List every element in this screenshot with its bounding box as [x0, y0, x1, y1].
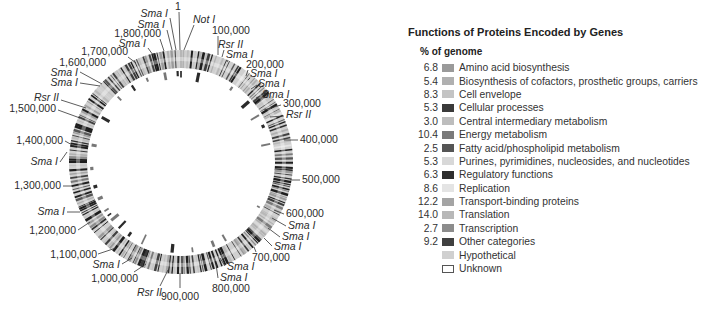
legend-label: Amino acid biosynthesis: [459, 62, 569, 73]
legend-swatch: [442, 238, 454, 246]
restriction-site-label: Sma I: [93, 258, 121, 270]
legend-percent: 2.5: [408, 143, 442, 154]
legend-label: Unknown: [459, 263, 502, 274]
legend-item: 14.0Translation: [408, 208, 703, 221]
legend-swatch: [442, 265, 454, 273]
legend-percent: 8.3: [408, 89, 442, 100]
restriction-site-label: Rsr II: [137, 286, 162, 298]
legend-item: 2.7Transcription: [408, 222, 703, 235]
position-label: 900,000: [161, 290, 199, 302]
position-label: 700,000: [252, 251, 290, 263]
legend-item: 5.3Purines, pyrimidines, nucleosides, an…: [408, 155, 703, 168]
legend-swatch: [442, 90, 454, 98]
legend-swatch: [442, 77, 454, 85]
leader-line: [179, 12, 180, 50]
leader-line: [184, 25, 194, 50]
legend-swatch: [442, 198, 454, 206]
legend-percent: 9.2: [408, 236, 442, 247]
legend-label: Cell envelope: [459, 89, 521, 100]
position-label: 1,300,000: [14, 179, 61, 191]
leader-line: [148, 48, 153, 55]
leader-line: [80, 83, 100, 86]
legend-item: 8.6Replication: [408, 182, 703, 195]
leader-line: [160, 39, 164, 51]
legend-title: Functions of Proteins Encoded by Genes: [408, 26, 703, 38]
position-label: 100,000: [212, 24, 250, 36]
legend-swatch: [442, 144, 454, 152]
legend-percent: 6.3: [408, 169, 442, 180]
legend-swatch: [442, 131, 454, 139]
position-label: 500,000: [302, 173, 340, 185]
leader-line: [167, 30, 172, 50]
legend-percent: 10.4: [408, 129, 442, 140]
position-label: 1,500,000: [9, 102, 56, 114]
leader-line: [61, 100, 86, 108]
legend: Functions of Proteins Encoded by Genes %…: [408, 26, 703, 275]
legend-label: Translation: [459, 209, 510, 220]
legend-swatch: [442, 117, 454, 125]
leader-line: [60, 152, 67, 162]
position-label: 800,000: [212, 282, 250, 294]
leader-line: [80, 72, 102, 84]
legend-swatch: [442, 104, 454, 112]
legend-swatch: [442, 64, 454, 72]
legend-label: Purines, pyrimidines, nucleosides, and n…: [459, 156, 690, 167]
restriction-site-label: Sma I: [31, 155, 59, 167]
legend-list: 6.8Amino acid biosynthesis5.4Biosynthesi…: [408, 61, 703, 275]
legend-label: Cellular processes: [459, 102, 544, 113]
position-label: 400,000: [300, 133, 338, 145]
position-label: 1,200,000: [29, 224, 76, 236]
legend-label: Fatty acid/phospholipid metabolism: [459, 143, 620, 154]
legend-percent: 5.4: [408, 76, 442, 87]
leader-line: [78, 222, 90, 230]
legend-swatch: [442, 157, 454, 165]
legend-percent: 3.0: [408, 116, 442, 127]
position-label: 600,000: [286, 207, 324, 219]
legend-label: Hypothetical: [459, 250, 516, 261]
legend-item: 6.3Regulatory functions: [408, 168, 703, 181]
legend-item: 10.4Energy metabolism: [408, 128, 703, 141]
legend-label: Replication: [459, 183, 510, 194]
legend-label: Energy metabolism: [459, 129, 547, 140]
legend-item: 12.2Transport-binding proteins: [408, 195, 703, 208]
position-label: 1: [175, 0, 181, 12]
legend-item: 8.3Cell envelope: [408, 88, 703, 101]
legend-item: 5.3Cellular processes: [408, 101, 703, 114]
legend-percent: 14.0: [408, 209, 442, 220]
legend-label: Regulatory functions: [459, 169, 553, 180]
legend-swatch: [442, 184, 454, 192]
legend-item: 2.5Fatty acid/phospholipid metabolism: [408, 141, 703, 154]
legend-item: 9.2Other categories: [408, 235, 703, 248]
legend-percent: 5.3: [408, 102, 442, 113]
restriction-site-label: Rsr II: [286, 108, 311, 120]
position-label: 1,400,000: [16, 134, 63, 146]
legend-percent: 8.6: [408, 183, 442, 194]
genome-circular-map: 1Sma INot ISma I1,800,000100,000Sma IRsr…: [0, 0, 370, 314]
legend-item: Hypothetical: [408, 248, 703, 261]
restriction-site-label: Sma I: [51, 76, 79, 88]
legend-swatch: [442, 211, 454, 219]
legend-label: Biosynthesis of cofactors, prosthetic gr…: [459, 76, 698, 87]
restriction-site-label: Sma I: [38, 205, 66, 217]
leader-line: [58, 110, 80, 118]
legend-label: Transcription: [459, 223, 518, 234]
inner-gene-marks: [90, 71, 270, 253]
legend-subtitle: % of genome: [420, 46, 703, 57]
legend-swatch: [442, 171, 454, 179]
legend-label: Other categories: [459, 236, 535, 247]
legend-percent: 2.7: [408, 223, 442, 234]
legend-percent: 12.2: [408, 196, 442, 207]
leader-line: [268, 228, 280, 237]
legend-item: 5.4Biosynthesis of cofactors, prosthetic…: [408, 74, 703, 87]
legend-swatch: [442, 251, 454, 259]
legend-percent: 6.8: [408, 62, 442, 73]
position-label: 1,100,000: [50, 248, 97, 260]
legend-item: Unknown: [408, 262, 703, 275]
legend-swatch: [442, 224, 454, 232]
leader-line: [264, 238, 272, 246]
leader-line: [222, 50, 224, 57]
legend-label: Central intermediary metabolism: [459, 116, 607, 127]
legend-item: 6.8Amino acid biosynthesis: [408, 61, 703, 74]
position-label: 1,000,000: [91, 272, 138, 284]
legend-item: 3.0Central intermediary metabolism: [408, 115, 703, 128]
